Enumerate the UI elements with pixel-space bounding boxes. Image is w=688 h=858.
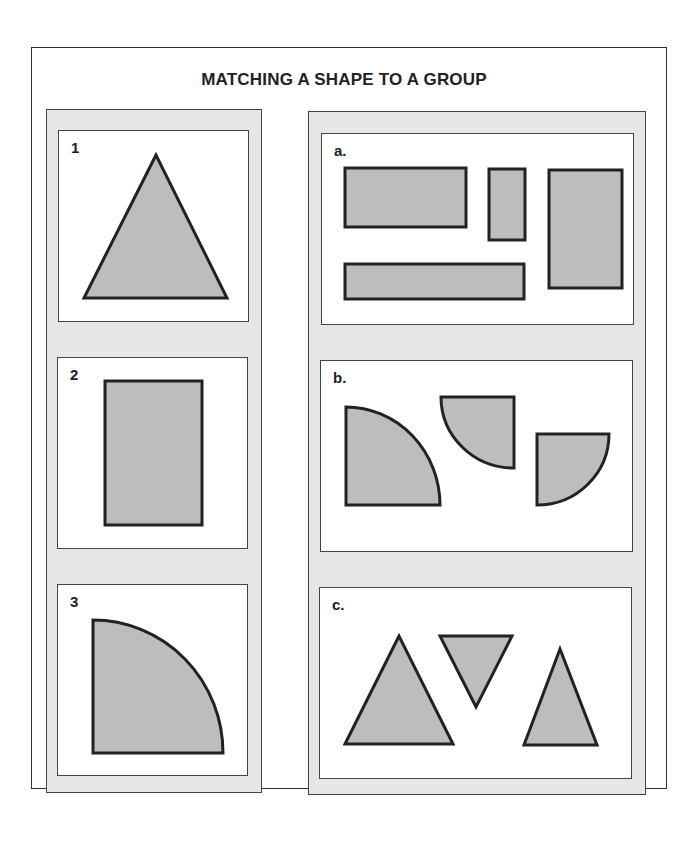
triangle-shape bbox=[59, 131, 250, 323]
group-card-b[interactable]: b. bbox=[320, 360, 633, 552]
shape-card-3[interactable]: 3 bbox=[57, 584, 248, 776]
rectangle bbox=[345, 264, 524, 299]
rectangle bbox=[345, 168, 466, 227]
rectangle bbox=[105, 381, 202, 525]
rectangle bbox=[489, 169, 525, 240]
triangle bbox=[524, 649, 597, 745]
quarter-circle-shape bbox=[58, 585, 249, 777]
rectangle bbox=[549, 170, 622, 288]
quarter-circles-group bbox=[321, 361, 634, 553]
triangle bbox=[84, 155, 227, 298]
quarter-circle bbox=[346, 407, 440, 505]
quarter-circle bbox=[537, 434, 609, 505]
quarter-circle bbox=[93, 620, 223, 753]
rectangle-shape bbox=[58, 358, 249, 550]
triangle bbox=[345, 636, 453, 744]
triangle-inverted bbox=[440, 636, 512, 707]
group-card-c[interactable]: c. bbox=[319, 587, 632, 779]
triangles-group bbox=[320, 588, 633, 780]
worksheet-title: MATCHING A SHAPE TO A GROUP bbox=[0, 70, 688, 90]
shape-card-2[interactable]: 2 bbox=[57, 357, 248, 549]
quarter-circle bbox=[441, 397, 514, 468]
rectangles-group bbox=[322, 134, 635, 326]
shape-card-1[interactable]: 1 bbox=[58, 130, 249, 322]
group-card-a[interactable]: a. bbox=[321, 133, 634, 325]
